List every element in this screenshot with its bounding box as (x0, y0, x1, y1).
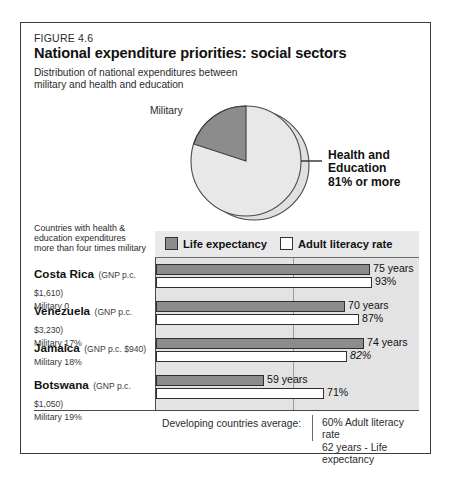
value-adult-literacy-botswana: 71% (327, 386, 348, 398)
country-name-line-jamaica: Jamaica (GNP p.c. $940) (34, 338, 156, 356)
value-adult-literacy-costa-rica: 93% (375, 275, 396, 287)
bar-life-expectancy-jamaica (156, 338, 364, 349)
footer-value-literacy: 60% Adult literacy rate (322, 417, 404, 440)
country-name-botswana: Botswana (34, 378, 89, 391)
bar-adult-literacy-venezuela (156, 314, 359, 325)
country-name-costa-rica: Costa Rica (34, 267, 94, 280)
legend-label-life-expectancy: Life expectancy (183, 238, 267, 250)
pie-label-health-line3: 81% or more (328, 175, 401, 189)
country-name-line-costa-rica: Costa Rica (GNP p.c. $1,610) (34, 264, 156, 300)
pie-chart-svg (21, 23, 432, 238)
figure-frame: FIGURE 4.6 National expenditure prioriti… (20, 22, 431, 454)
legend-swatch-adult-literacy (280, 237, 293, 250)
bar-chart-plot: 75 years 93% 70 years 87% 74 years 82% 5… (155, 258, 419, 410)
footer-value-life-expectancy: 62 years - Life expectancy (322, 442, 387, 465)
footer-values: 60% Adult literacy rate 62 years - Life … (322, 417, 419, 467)
country-name-line-botswana: Botswana (GNP p.c. $1,050) (34, 375, 156, 411)
criteria-note-line2: education expenditures (34, 233, 126, 243)
legend-item-life-expectancy: Life expectancy (165, 237, 267, 250)
country-gnp-jamaica: (GNP p.c. $940) (84, 344, 146, 354)
country-label-jamaica: Jamaica (GNP p.c. $940) Military 18% (34, 338, 156, 367)
pie-chart: Military Health and Education 81% or mor… (21, 23, 432, 238)
pie-label-health: Health and Education 81% or more (328, 149, 401, 189)
chart-legend: Life expectancy Adult literacy rate (155, 231, 419, 258)
pie-label-military: Military (150, 105, 183, 116)
bar-life-expectancy-botswana (156, 375, 264, 386)
bar-adult-literacy-botswana (156, 388, 324, 399)
legend-item-adult-literacy: Adult literacy rate (280, 237, 393, 250)
bar-life-expectancy-venezuela (156, 301, 345, 312)
value-life-expectancy-jamaica: 74 years (367, 336, 408, 348)
pie-label-health-line2: Education (328, 161, 386, 175)
value-adult-literacy-jamaica: 82% (350, 349, 371, 361)
criteria-note-line3: more than four times military (34, 243, 146, 253)
chart-footer: Developing countries average: 60% Adult … (34, 410, 419, 442)
criteria-note-line1: Countries with health & (34, 223, 125, 233)
footer-divider (312, 415, 313, 441)
footer-label: Developing countries average: (162, 418, 301, 429)
legend-swatch-life-expectancy (165, 237, 178, 250)
criteria-note: Countries with health & education expend… (34, 223, 146, 254)
value-adult-literacy-venezuela: 87% (362, 312, 383, 324)
bar-life-expectancy-costa-rica (156, 264, 370, 275)
value-life-expectancy-botswana: 59 years (267, 373, 308, 385)
bar-adult-literacy-costa-rica (156, 277, 372, 288)
country-name-line-venezuela: Venezuela (GNP p.c. $3,230) (34, 301, 156, 337)
value-life-expectancy-costa-rica: 75 years (373, 262, 414, 274)
legend-label-adult-literacy: Adult literacy rate (298, 238, 393, 250)
value-life-expectancy-venezuela: 70 years (348, 299, 389, 311)
country-name-venezuela: Venezuela (34, 304, 90, 317)
country-military-jamaica: Military 18% (34, 357, 156, 367)
bar-adult-literacy-jamaica (156, 351, 347, 362)
pie-label-health-line1: Health and (328, 148, 390, 162)
country-name-jamaica: Jamaica (34, 341, 80, 354)
